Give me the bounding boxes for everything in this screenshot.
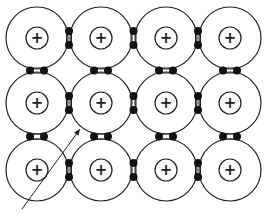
plus-icon: + xyxy=(95,29,108,47)
electron-dot xyxy=(26,133,34,141)
arrowhead-icon xyxy=(74,129,80,136)
plus-icon: + xyxy=(224,29,237,47)
electron-dot xyxy=(65,173,73,181)
electron-dot xyxy=(104,133,112,141)
electron-dot xyxy=(130,92,138,100)
plus-icon: + xyxy=(31,161,44,179)
electron-dot xyxy=(130,159,138,167)
electron-dot xyxy=(65,92,73,100)
electron-dot xyxy=(65,27,73,35)
electron-dot xyxy=(194,41,202,49)
electron-dot xyxy=(104,67,112,75)
electron-dot xyxy=(130,41,138,49)
plus-icon: + xyxy=(160,94,173,112)
electron-dot xyxy=(194,173,202,181)
electron-dot xyxy=(40,133,48,141)
electron-dot xyxy=(194,92,202,100)
lattice-canvas: ++++++++++++ xyxy=(0,0,275,214)
electron-dot xyxy=(40,67,48,75)
electron-dot xyxy=(219,133,227,141)
lattice-diagram: Lattice of positive ions with shared ele… xyxy=(0,0,275,214)
electron-dot xyxy=(155,133,163,141)
electron-dot xyxy=(130,27,138,35)
plus-icon: + xyxy=(31,94,44,112)
plus-icon: + xyxy=(31,29,44,47)
electron-dot xyxy=(65,106,73,114)
electron-dot xyxy=(194,106,202,114)
electron-dot xyxy=(90,133,98,141)
electron-dot xyxy=(169,67,177,75)
electron-dot xyxy=(65,41,73,49)
electron-dot xyxy=(194,27,202,35)
electron-dot xyxy=(155,67,163,75)
electron-dot xyxy=(233,67,241,75)
electron-dot xyxy=(90,67,98,75)
electron-dot xyxy=(130,106,138,114)
electron-dot xyxy=(169,133,177,141)
plus-icon: + xyxy=(160,161,173,179)
electron-dot xyxy=(194,159,202,167)
electron-dot xyxy=(130,173,138,181)
electron-dot xyxy=(65,159,73,167)
electron-dot xyxy=(26,67,34,75)
plus-icon: + xyxy=(224,94,237,112)
plus-icon: + xyxy=(95,94,108,112)
electron-dot xyxy=(233,133,241,141)
electron-dot xyxy=(219,67,227,75)
plus-icon: + xyxy=(224,161,237,179)
plus-icon: + xyxy=(160,29,173,47)
plus-icon: + xyxy=(95,161,108,179)
